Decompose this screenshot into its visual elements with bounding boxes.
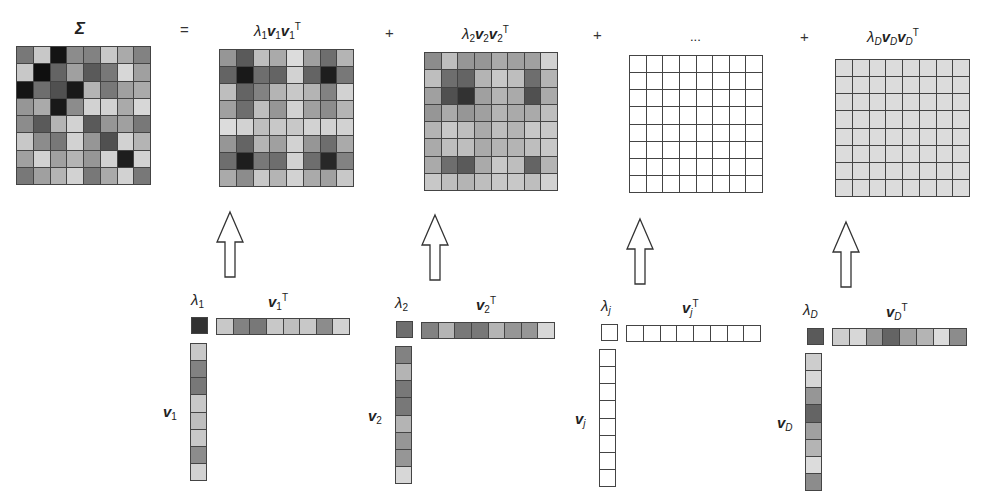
matrix-cell xyxy=(101,151,117,167)
matrix-cell xyxy=(321,136,337,152)
matrix-cell xyxy=(663,125,679,141)
vector-cell xyxy=(883,329,899,345)
vector-cell xyxy=(806,371,821,387)
vector-cell xyxy=(191,361,206,377)
matrix-cell xyxy=(508,105,524,121)
vector-cell xyxy=(439,323,455,338)
matrix-cell xyxy=(51,82,67,98)
matrix-cell xyxy=(270,170,286,186)
matrix-cell xyxy=(953,111,969,127)
vector-cell xyxy=(217,319,233,334)
matrix-cell xyxy=(134,82,150,98)
v-symbol: v xyxy=(897,28,905,45)
matrix-cell xyxy=(84,151,100,167)
matrix-cell xyxy=(697,125,713,141)
matrix-cell xyxy=(51,99,67,115)
matrix-cell xyxy=(746,56,762,72)
matrix-cell xyxy=(713,142,729,158)
matrix-cell xyxy=(647,107,663,123)
matrix-cell xyxy=(541,139,557,155)
vector-cell xyxy=(600,350,615,366)
sigma-matrix xyxy=(16,46,151,185)
vector-cell xyxy=(627,326,643,341)
subscript: D xyxy=(906,36,913,47)
vector-cell xyxy=(250,319,266,334)
vector-cell xyxy=(455,323,471,338)
matrix-cell xyxy=(425,122,441,138)
matrix-cell xyxy=(442,174,458,190)
matrix-cell xyxy=(51,168,67,184)
transpose-mark: T xyxy=(503,24,509,35)
matrix-cell xyxy=(118,64,134,80)
matrix-cell xyxy=(270,119,286,135)
matrix-cell xyxy=(680,90,696,106)
matrix-cell xyxy=(270,67,286,83)
matrix-cell xyxy=(34,82,50,98)
vector-cell xyxy=(644,326,660,341)
v1T-label: v1T xyxy=(268,293,288,312)
matrix-cell xyxy=(304,170,320,186)
vector-cell xyxy=(396,381,411,397)
matrix-cell xyxy=(304,136,320,152)
matrix-cell xyxy=(287,67,303,83)
subscript: j xyxy=(583,418,585,429)
matrix-cell xyxy=(84,47,100,63)
term2-label: λ2v2v2T xyxy=(462,25,509,44)
vector-cell xyxy=(600,367,615,383)
vector-cell xyxy=(661,326,677,341)
matrix-cell xyxy=(508,157,524,173)
matrix-cell xyxy=(492,139,508,155)
matrix-cell xyxy=(321,50,337,66)
subscript: 2 xyxy=(402,302,408,313)
matrix-cell xyxy=(492,157,508,173)
matrix-cell xyxy=(220,50,236,66)
matrix-cell xyxy=(508,139,524,155)
subscript: D xyxy=(785,422,792,433)
matrix-cell xyxy=(51,133,67,149)
matrix-cell xyxy=(337,50,353,66)
matrix-cell xyxy=(134,133,150,149)
vector-cell xyxy=(867,329,883,345)
matrix-cell xyxy=(920,180,936,196)
matrix-cell xyxy=(886,77,902,93)
matrix-cell xyxy=(680,107,696,123)
matrix-cell xyxy=(287,136,303,152)
matrix-cell xyxy=(118,99,134,115)
vector-cell xyxy=(396,467,411,483)
matrix-cell xyxy=(680,73,696,89)
matrix-cell xyxy=(67,168,83,184)
subscript: 2 xyxy=(376,415,382,426)
matrix-cell xyxy=(713,176,729,192)
matrix-cell xyxy=(630,56,646,72)
termD-label: λDvDvDT xyxy=(867,28,919,47)
matrix-cell xyxy=(853,94,869,110)
plus-sign-1: + xyxy=(385,25,394,40)
matrix-cell xyxy=(697,90,713,106)
matrix-cell xyxy=(101,116,117,132)
matrix-cell xyxy=(492,174,508,190)
matrix-cell xyxy=(337,101,353,117)
vj-label: vj xyxy=(575,411,586,429)
matrix-cell xyxy=(118,82,134,98)
matrix-cell xyxy=(101,64,117,80)
v2T-row-vector xyxy=(421,322,555,339)
matrix-cell xyxy=(442,122,458,138)
matrix-cell xyxy=(101,47,117,63)
matrix-cell xyxy=(17,116,33,132)
matrix-cell xyxy=(237,50,253,66)
matrix-cell xyxy=(525,88,541,104)
matrix-cell xyxy=(34,168,50,184)
matrix-cell xyxy=(903,77,919,93)
lambda1-label: λ1 xyxy=(191,292,204,310)
matrix-cell xyxy=(425,88,441,104)
matrix-cell xyxy=(630,73,646,89)
matrix-cell xyxy=(270,101,286,117)
vector-cell xyxy=(191,395,206,411)
matrix-cell xyxy=(920,60,936,76)
vector-cell xyxy=(833,329,849,345)
matrix-cell xyxy=(525,105,541,121)
matrix-cell xyxy=(903,94,919,110)
matrix-cell xyxy=(475,53,491,69)
matrix-cell xyxy=(134,151,150,167)
vector-cell xyxy=(711,326,727,341)
